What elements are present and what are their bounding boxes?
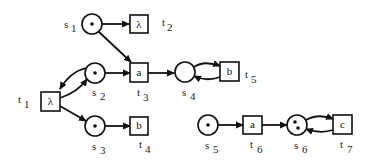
petri-net-diagram: s 1 s 2 s 3 s 4 s 5 s 6 λ t 1 λ [0, 0, 374, 167]
svg-text:t: t [18, 93, 21, 105]
place-s3: s 3 [85, 116, 106, 156]
svg-text:a: a [250, 118, 255, 130]
place-s6: s 6 [287, 115, 308, 155]
transition-t2: λ t 2 [130, 15, 173, 33]
transition-t7: c t 7 [333, 115, 353, 155]
svg-text:t: t [245, 68, 248, 80]
arc-t7-s6 [306, 129, 333, 132]
arc-s4-t5 [194, 63, 220, 67]
token [90, 22, 94, 26]
transition-t5: b t 5 [220, 62, 257, 85]
transition-t1: λ t 1 [18, 92, 60, 111]
svg-text:t: t [139, 138, 142, 150]
svg-text:1: 1 [71, 22, 77, 34]
svg-text:t: t [340, 138, 343, 150]
svg-text:b: b [136, 119, 142, 131]
svg-text:2: 2 [100, 90, 106, 102]
svg-text:4: 4 [145, 143, 151, 155]
place-s4: s 4 [175, 62, 196, 102]
svg-text:1: 1 [24, 98, 30, 110]
svg-text:s: s [205, 139, 209, 151]
place-s5: s 5 [198, 115, 219, 155]
transition-t6: a t 6 [243, 116, 263, 155]
svg-text:5: 5 [251, 73, 257, 85]
token [206, 123, 210, 127]
arc-t5-s4 [194, 76, 220, 79]
svg-text:s: s [92, 86, 96, 98]
svg-text:s: s [64, 18, 68, 30]
svg-text:3: 3 [100, 144, 106, 156]
arc-s6-t7 [306, 116, 333, 120]
svg-text:λ: λ [136, 18, 142, 30]
svg-text:a: a [137, 66, 142, 78]
svg-text:s: s [92, 140, 96, 152]
svg-text:λ: λ [48, 95, 54, 107]
svg-text:s: s [182, 86, 186, 98]
svg-text:2: 2 [167, 21, 173, 33]
transition-t4: b t 4 [130, 117, 151, 155]
svg-text:5: 5 [213, 143, 219, 155]
token [93, 124, 97, 128]
svg-text:b: b [227, 65, 233, 77]
svg-text:3: 3 [143, 91, 149, 103]
place-s1: s 1 [64, 14, 102, 34]
place-s2: s 2 [85, 63, 106, 102]
token [293, 120, 297, 124]
svg-text:t: t [162, 16, 165, 28]
svg-text:s: s [294, 139, 298, 151]
svg-text:t: t [250, 138, 253, 150]
svg-text:4: 4 [190, 90, 196, 102]
token [296, 126, 300, 130]
svg-text:6: 6 [257, 143, 263, 155]
svg-text:6: 6 [302, 143, 308, 155]
token [93, 71, 97, 75]
svg-text:t: t [137, 86, 140, 98]
svg-text:c: c [340, 118, 345, 130]
arc-s1-t3 [99, 32, 131, 62]
transition-t3: a t 3 [130, 63, 149, 103]
svg-text:7: 7 [347, 143, 353, 155]
arc-t1-s3 [60, 106, 86, 121]
